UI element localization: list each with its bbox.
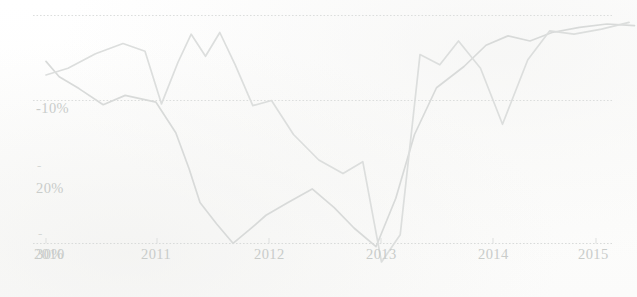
x-axis-label-2012: 2012	[254, 246, 285, 263]
plot-area: -10% - 20% - 30% 2010 2011 2012 2013 201…	[0, 0, 637, 297]
x-axis-label-2014: 2014	[478, 246, 509, 263]
series-layer	[0, 0, 637, 297]
chart-screenshot: -10% - 20% - 30% 2010 2011 2012 2013 201…	[0, 0, 637, 297]
y-axis-label-neg20: 20%	[36, 180, 64, 197]
series-line-a	[46, 24, 635, 247]
x-axis-label-2010: 2010	[34, 246, 65, 263]
x-axis-label-2011: 2011	[141, 246, 171, 263]
y-axis-label-neg10: -10%	[36, 100, 69, 117]
series-line-b	[46, 22, 629, 262]
x-axis-label-2015: 2015	[578, 246, 609, 263]
y-axis-minus-neg30: -	[38, 226, 42, 242]
y-axis-minus-neg20: -	[37, 158, 41, 174]
x-axis-label-2013: 2013	[366, 246, 397, 263]
